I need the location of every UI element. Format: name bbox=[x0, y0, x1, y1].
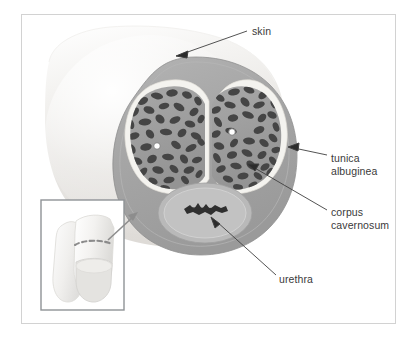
label-urethra: urethra bbox=[279, 273, 313, 286]
cavernous-artery-right bbox=[229, 129, 236, 136]
label-tunica-line2: albuginea bbox=[331, 165, 377, 178]
corpus-spongiosum bbox=[158, 183, 252, 243]
label-tunica-line1: tunica bbox=[331, 152, 377, 165]
figure-page: skin tunica albuginea corpus cavernosum … bbox=[0, 0, 417, 351]
corpus-cavernosum-left bbox=[125, 80, 209, 194]
label-corpus-line1: corpus bbox=[331, 206, 389, 219]
label-corpus-cavernosum: corpus cavernosum bbox=[331, 206, 389, 232]
label-corpus-line2: cavernosum bbox=[331, 219, 389, 232]
cavernous-artery-left bbox=[154, 143, 161, 150]
label-skin: skin bbox=[252, 25, 271, 38]
label-tunica-albuginea: tunica albuginea bbox=[331, 152, 377, 178]
whole-organ-inset bbox=[41, 200, 124, 310]
